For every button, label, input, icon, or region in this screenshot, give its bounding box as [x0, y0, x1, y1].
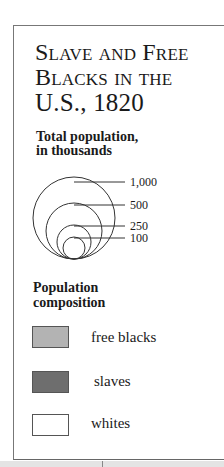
slaves-swatch — [32, 371, 69, 393]
circle-label-1000: 1,000 — [130, 176, 157, 188]
whites-swatch — [32, 414, 69, 436]
circle-label-500: 500 — [130, 199, 148, 211]
composition-heading-line-1: Population — [33, 280, 105, 295]
slaves-label: slaves — [94, 374, 131, 389]
circle-label-100: 100 — [130, 232, 148, 244]
free-blacks-label: free blacks — [91, 330, 156, 345]
composition-heading-line-2: composition — [33, 295, 105, 310]
whites-label: whites — [91, 416, 130, 431]
free-blacks-swatch — [32, 326, 69, 348]
proportional-circles-icon — [0, 0, 224, 467]
composition-legend-heading: Population composition — [33, 280, 105, 310]
